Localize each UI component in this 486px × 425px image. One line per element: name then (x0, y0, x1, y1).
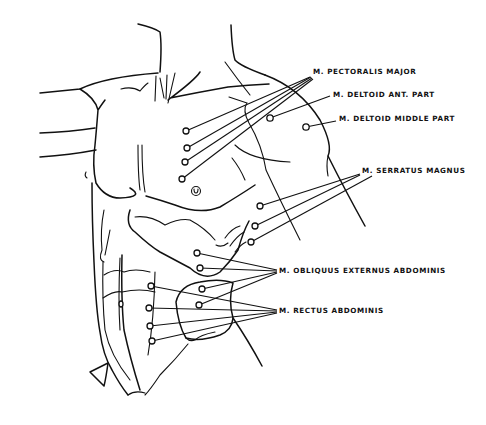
navel-mark (194, 189, 198, 193)
left-inner-flank (103, 262, 130, 380)
serratus-magnus-leaders (251, 174, 372, 242)
deltoid-ant-point (267, 115, 273, 121)
label-serratus-magnus: M. SERRATUS MAGNUS (362, 167, 465, 174)
hip-bottom (128, 392, 145, 395)
left-pec-outline (80, 89, 136, 198)
label-deltoid-ant-part: M. DELTOID ANT. PART (333, 91, 435, 98)
deltoid-middle-point (303, 124, 309, 130)
linea-alba (119, 258, 120, 330)
label-deltoid-middle-part: M. DELTOID MIDDLE PART (339, 115, 455, 122)
torso-illustration (0, 0, 486, 425)
label-rectus-abdominis: M. RECTUS ABDOMINIS (279, 307, 384, 314)
neck-right-outline (231, 25, 265, 75)
left-torso-flank (92, 183, 128, 395)
deltoid-inner-line (327, 156, 328, 176)
nipple-left (85, 172, 87, 178)
neck-left-outline (138, 24, 161, 72)
hip-left (90, 363, 108, 386)
clavicle-left (121, 83, 148, 91)
clavicle-right (168, 72, 269, 100)
oblique-inner-line (135, 217, 215, 240)
label-pectoralis-major: M. PECTORALIS MAJOR (313, 68, 416, 75)
sternal-notch (155, 73, 175, 103)
left-arm-lower (40, 150, 96, 157)
sternum-line (138, 145, 145, 192)
anatomy-diagram: M. PECTORALIS MAJOR M. DELTOID ANT. PART… (0, 0, 486, 425)
navel-symbol (192, 187, 201, 196)
left-arm-upper (40, 128, 95, 133)
right-flank-line (233, 318, 262, 366)
left-lat-line (100, 210, 110, 262)
serratus-magnus-points (248, 203, 263, 245)
obliquus-externus-points (194, 250, 205, 308)
inner-pec-curve (232, 158, 245, 180)
rectus-bands (103, 270, 155, 298)
label-obliquus-externus-abdominis: M. OBLIQUUS EXTERNUS ABDOMINIS (279, 267, 446, 274)
rectus-outline (122, 255, 140, 390)
